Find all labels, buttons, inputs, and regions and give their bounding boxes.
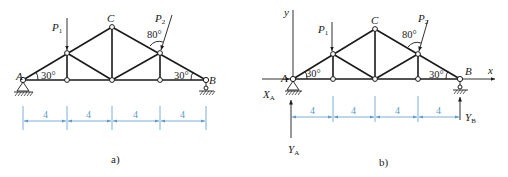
svg-text:4: 4 xyxy=(436,105,441,116)
angle-arc-left-a xyxy=(36,72,38,80)
load-p2-label-a: P2 xyxy=(154,12,166,26)
load-p2-label-b: P2 xyxy=(417,12,429,26)
reaction-yb-label: YB xyxy=(465,111,476,125)
angle-arc-right-a xyxy=(191,72,193,80)
svg-text:4: 4 xyxy=(133,109,138,120)
caption-a: a) xyxy=(111,153,120,166)
angle-left-label-b: 30° xyxy=(306,68,321,79)
load-p1-label-b: P1 xyxy=(317,23,329,37)
node-a-label-a: A xyxy=(15,70,23,82)
node-a-label-b: A xyxy=(280,72,288,84)
figure-b: y x XA xyxy=(262,6,495,169)
roller-support-b-b xyxy=(453,82,468,94)
reaction-xa-label: XA xyxy=(262,88,275,102)
truss-diagram: P1 P2 80° 30° 30° A B C 4 4 4 4 a) xyxy=(0,0,508,177)
svg-text:4: 4 xyxy=(351,105,356,116)
dimension-line-b: 4 4 4 4 xyxy=(292,96,459,122)
angle-arc-80-b xyxy=(408,42,421,47)
angle-arc-80-a xyxy=(150,41,163,46)
angle-left-label-a: 30° xyxy=(41,70,56,81)
load-p1-label-a: P1 xyxy=(51,21,63,35)
x-axis-label: x xyxy=(487,64,493,76)
reaction-ya-label: YA xyxy=(288,143,299,157)
angle-right-label-b: 30° xyxy=(429,69,444,80)
svg-text:4: 4 xyxy=(395,105,400,116)
node-c-label-b: C xyxy=(371,14,379,26)
node-b-label-a: B xyxy=(209,74,216,86)
svg-text:4: 4 xyxy=(43,109,48,120)
figure-a: P1 P2 80° 30° 30° A B C 4 4 4 4 a) xyxy=(14,12,216,166)
dimension-line-a: 4 4 4 4 xyxy=(23,106,206,130)
angle-80-label-a: 80° xyxy=(147,29,162,40)
node-c-label-a: C xyxy=(107,12,115,24)
svg-text:4: 4 xyxy=(180,109,185,120)
svg-text:4: 4 xyxy=(310,105,315,116)
angle-right-label-a: 30° xyxy=(174,70,189,81)
node-b-label-b: B xyxy=(465,65,472,77)
pin-support-a xyxy=(14,82,33,96)
caption-b: b) xyxy=(379,156,389,169)
angle-80-label-b: 80° xyxy=(402,29,417,40)
y-axis-label: y xyxy=(283,6,289,18)
svg-text:4: 4 xyxy=(86,109,91,120)
angle-arc-right-b xyxy=(446,71,448,79)
